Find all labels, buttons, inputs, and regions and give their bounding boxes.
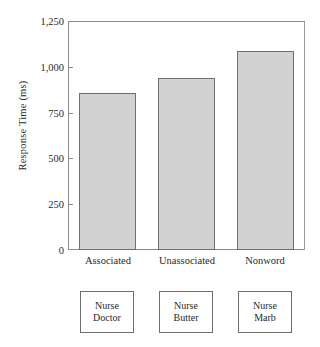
y-tick-mark-500 bbox=[68, 158, 73, 159]
y-tick-label-0: 0 bbox=[30, 245, 64, 256]
y-axis-title-text: Response Time (ms) bbox=[18, 80, 29, 170]
y-tick-label-1250: 1,250 bbox=[30, 16, 64, 27]
stimulus-box-associated: Nurse Doctor bbox=[80, 291, 134, 333]
x-category-label-nonword: Nonword bbox=[229, 255, 301, 266]
x-category-label-associated: Associated bbox=[70, 255, 146, 266]
chart-figure: Response Time (ms) 1,250 1,000 750 500 2… bbox=[0, 0, 320, 347]
y-tick-label-500: 500 bbox=[30, 153, 64, 164]
stimulus-target-nonword: Marb bbox=[254, 312, 276, 324]
bar-unassociated bbox=[158, 78, 215, 250]
y-tick-mark-1000 bbox=[68, 67, 73, 68]
stimulus-prime-associated: Nurse bbox=[95, 300, 119, 312]
stimulus-target-unassociated: Butter bbox=[174, 312, 199, 324]
y-tick-label-250: 250 bbox=[30, 199, 64, 210]
y-tick-mark-750 bbox=[68, 113, 73, 114]
y-tick-mark-250 bbox=[68, 204, 73, 205]
y-axis-tick-labels: 1,250 1,000 750 500 250 0 bbox=[28, 0, 64, 347]
x-category-label-unassociated: Unassociated bbox=[145, 255, 229, 266]
stimulus-box-nonword: Nurse Marb bbox=[238, 291, 292, 333]
bar-associated bbox=[79, 93, 136, 250]
y-tick-label-750: 750 bbox=[30, 107, 64, 118]
stimulus-box-unassociated: Nurse Butter bbox=[159, 291, 213, 333]
stimulus-prime-nonword: Nurse bbox=[253, 300, 277, 312]
stimulus-prime-unassociated: Nurse bbox=[174, 300, 198, 312]
bar-nonword bbox=[237, 51, 294, 250]
y-tick-label-1000: 1,000 bbox=[30, 61, 64, 72]
stimulus-target-associated: Doctor bbox=[93, 312, 121, 324]
